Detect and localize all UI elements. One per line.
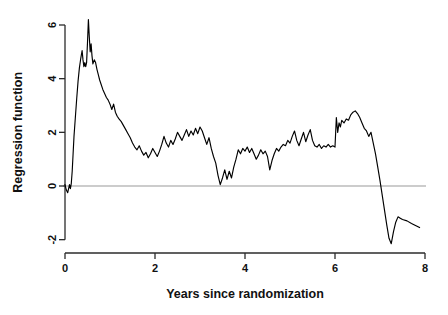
- x-tick-label: 0: [62, 262, 68, 274]
- y-tick-label: 6: [46, 22, 58, 28]
- x-axis-title: Years since randomization: [166, 287, 324, 301]
- x-tick-label: 4: [242, 262, 249, 274]
- x-tick-label: 6: [332, 262, 338, 274]
- y-axis-title: Regression function: [11, 72, 25, 193]
- y-tick-label: 0: [46, 183, 58, 189]
- x-tick-label: 2: [152, 262, 158, 274]
- x-tick-label: 8: [422, 262, 428, 274]
- y-tick-label: -2: [46, 235, 58, 245]
- chart-canvas: -20246 02468 Years since randomization R…: [0, 0, 448, 315]
- y-tick-label: 2: [46, 129, 58, 135]
- regression-function-figure: -20246 02468 Years since randomization R…: [0, 0, 448, 315]
- y-tick-label: 4: [46, 75, 58, 82]
